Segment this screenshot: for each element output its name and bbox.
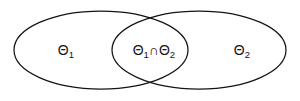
left-set-label: Θ1 <box>31 42 94 62</box>
right-set-label: Θ2 <box>207 42 270 62</box>
venn-diagram-figure: Θ1 Θ1∩Θ2 Θ2 <box>0 0 300 101</box>
intersection-label-base-2: Θ <box>159 42 170 58</box>
intersection-operator-icon: ∩ <box>149 42 159 58</box>
left-set-label-base: Θ <box>58 42 69 58</box>
venn-diagram-canvas: Θ1 Θ1∩Θ2 Θ2 <box>0 0 300 101</box>
right-set-label-subscript: 2 <box>245 49 250 60</box>
intersection-label: Θ1∩Θ2 <box>105 42 194 62</box>
left-set-label-subscript: 1 <box>69 49 74 60</box>
right-set-label-base: Θ <box>234 42 245 58</box>
intersection-label-base-1: Θ <box>133 42 144 58</box>
intersection-label-subscript-2: 2 <box>170 49 175 60</box>
